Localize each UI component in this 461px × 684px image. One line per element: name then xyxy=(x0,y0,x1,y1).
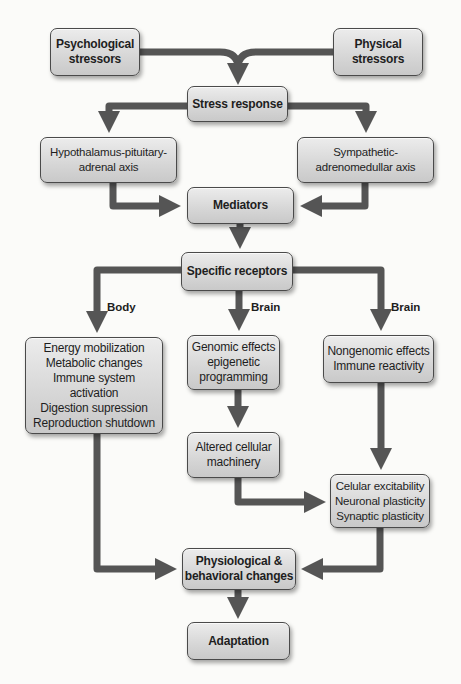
node-text: Stress response xyxy=(192,97,282,112)
node-text: Physiological & xyxy=(185,554,293,569)
hpa-axis-node: Hypothalamus-pituitary- adrenal axis xyxy=(40,137,177,183)
node-text: Hypothalamus-pituitary- xyxy=(50,145,167,160)
adaptation-node: Adaptation xyxy=(187,622,290,660)
node-text: Celular excitability xyxy=(335,479,425,494)
branch-label-body: Body xyxy=(107,301,136,313)
branch-label-brain-right: Brain xyxy=(391,301,420,313)
altered-cellular-machinery-node: Altered cellular machinery xyxy=(187,432,280,478)
node-text: Nongenomic effects xyxy=(327,344,429,359)
node-text: stressors xyxy=(352,52,404,67)
node-text: machinery xyxy=(195,455,271,470)
mediators-node: Mediators xyxy=(187,187,294,224)
node-text: Psychological xyxy=(56,37,134,52)
node-text: adrenomedullar axis xyxy=(316,160,416,175)
node-text: Immune reactivity xyxy=(327,359,429,374)
cellular-excitability-node: Celular excitability Neuronal plasticity… xyxy=(330,474,430,528)
node-text: Neuronal plasticity xyxy=(335,494,425,509)
node-text: Specific receptors xyxy=(187,264,287,279)
node-text: Genomic effects xyxy=(192,340,276,355)
node-text: Mediators xyxy=(213,198,268,213)
physical-stressors-node: Physical stressors xyxy=(333,28,423,76)
node-text: adrenal axis xyxy=(50,160,167,175)
body-effects-node: Energy mobilization Metabolic changes Im… xyxy=(25,337,163,434)
node-text: behavioral changes xyxy=(185,569,293,584)
nongenomic-effects-node: Nongenomic effects Immune reactivity xyxy=(323,335,434,383)
physiological-behavioral-changes-node: Physiological & behavioral changes xyxy=(182,548,296,590)
node-text: Physical xyxy=(352,37,404,52)
specific-receptors-node: Specific receptors xyxy=(181,252,293,291)
branch-label-brain-center: Brain xyxy=(251,301,280,313)
node-text: Immune system xyxy=(33,371,155,386)
node-text: Synaptic plasticity xyxy=(335,509,425,524)
node-text: activation xyxy=(33,386,155,401)
node-text: Sympathetic- xyxy=(316,145,416,160)
psychological-stressors-node: Psychological stressors xyxy=(50,28,140,76)
node-text: Reproduction shutdown xyxy=(33,416,155,431)
node-text: Energy mobilization xyxy=(33,341,155,356)
node-text: programming xyxy=(192,370,276,385)
stress-response-node: Stress response xyxy=(187,86,288,122)
node-text: Altered cellular xyxy=(195,440,271,455)
sympathetic-axis-node: Sympathetic- adrenomedullar axis xyxy=(297,137,434,183)
node-text: Metabolic changes xyxy=(33,356,155,371)
node-text: epigenetic xyxy=(192,355,276,370)
node-text: Adaptation xyxy=(208,634,269,649)
node-text: stressors xyxy=(56,52,134,67)
genomic-effects-node: Genomic effects epigenetic programming xyxy=(187,335,280,390)
node-text: Digestion supression xyxy=(33,401,155,416)
